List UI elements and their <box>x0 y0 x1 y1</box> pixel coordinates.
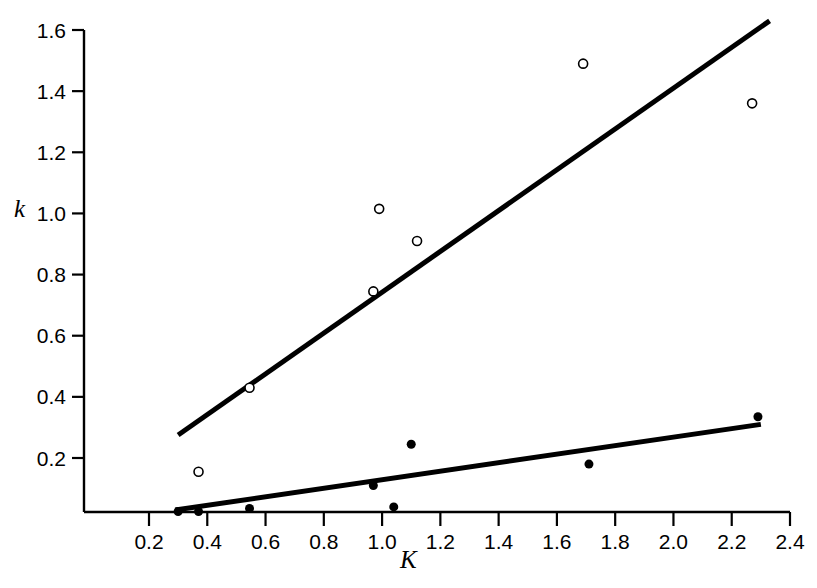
y-tick-label: 0.4 <box>37 385 67 408</box>
upper-fit-line <box>178 21 769 435</box>
y-tick-label: 1.0 <box>37 202 66 225</box>
open-circle-marker <box>748 99 757 108</box>
x-tick-label: 1.2 <box>426 530 455 553</box>
x-tick-label: 2.0 <box>659 530 688 553</box>
y-tick-label: 1.4 <box>37 80 67 103</box>
x-tick-label: 0.8 <box>309 530 338 553</box>
open-circle-marker <box>245 383 254 392</box>
lower-fit-line <box>175 424 761 510</box>
x-tick-label: 2.4 <box>775 530 805 553</box>
scatter-plot-canvas: 0.20.40.60.81.01.21.41.6 0.20.40.60.81.0… <box>0 0 817 588</box>
y-tick-label: 0.8 <box>37 263 66 286</box>
x-axis-label: K <box>400 546 417 574</box>
y-tick-label: 1.6 <box>37 19 66 42</box>
filled-circle-marker <box>389 502 398 511</box>
filled-circle-markers-group <box>174 412 763 516</box>
fit-lines-group <box>175 21 769 510</box>
filled-circle-marker <box>194 507 203 516</box>
y-tick-label: 1.2 <box>37 141 66 164</box>
open-circle-marker <box>369 287 378 296</box>
filled-circle-marker <box>174 507 183 516</box>
x-tick-label: 0.6 <box>251 530 280 553</box>
x-tick-label: 1.8 <box>601 530 630 553</box>
axes-group <box>84 30 790 512</box>
filled-circle-marker <box>369 481 378 490</box>
open-circle-marker <box>194 467 203 476</box>
open-circle-marker <box>413 236 422 245</box>
filled-circle-marker <box>245 504 254 513</box>
y-ticks-group: 0.20.40.60.81.01.21.41.6 <box>37 19 84 470</box>
x-tick-label: 1.6 <box>542 530 571 553</box>
x-tick-label: 0.2 <box>134 530 163 553</box>
filled-circle-marker <box>753 412 762 421</box>
x-ticks-group: 0.20.40.60.81.01.21.41.61.82.02.22.4 <box>134 512 805 553</box>
filled-circle-marker <box>584 460 593 469</box>
x-tick-label: 2.2 <box>717 530 746 553</box>
open-circle-marker <box>579 59 588 68</box>
y-axis-label: k <box>14 195 25 223</box>
y-tick-label: 0.6 <box>37 324 66 347</box>
x-tick-label: 0.4 <box>193 530 223 553</box>
filled-circle-marker <box>407 440 416 449</box>
x-tick-label: 1.0 <box>367 530 396 553</box>
chart-figure: 0.20.40.60.81.01.21.41.6 0.20.40.60.81.0… <box>0 0 817 588</box>
y-tick-label: 0.2 <box>37 447 66 470</box>
open-circle-markers-group <box>194 59 757 476</box>
x-tick-label: 1.4 <box>484 530 514 553</box>
open-circle-marker <box>375 204 384 213</box>
